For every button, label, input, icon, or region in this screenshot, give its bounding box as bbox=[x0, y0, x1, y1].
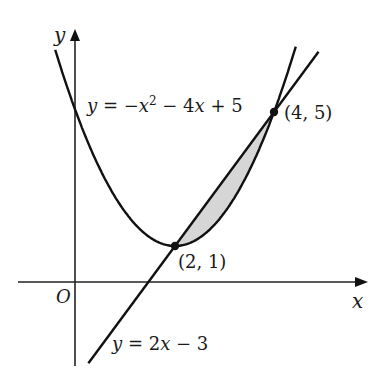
point-b-label: (4, 5) bbox=[284, 102, 332, 123]
y-axis-label: y bbox=[53, 23, 66, 47]
y-axis-arrow-icon bbox=[70, 29, 80, 41]
x-axis-label: x bbox=[352, 289, 363, 313]
graph-figure: y x O y = −x2 − 4x + 5 y = 2x − 3 (2, 1)… bbox=[0, 0, 374, 369]
line-equation: y = 2x − 3 bbox=[111, 333, 208, 354]
point-2-1 bbox=[171, 242, 179, 250]
point-4-5 bbox=[270, 108, 278, 116]
point-a-label: (2, 1) bbox=[178, 251, 226, 272]
origin-label: O bbox=[56, 286, 71, 307]
x-axis-arrow-icon bbox=[355, 277, 368, 287]
curve-equation: y = −x2 − 4x + 5 bbox=[86, 94, 243, 116]
parabola-curve bbox=[55, 47, 296, 246]
